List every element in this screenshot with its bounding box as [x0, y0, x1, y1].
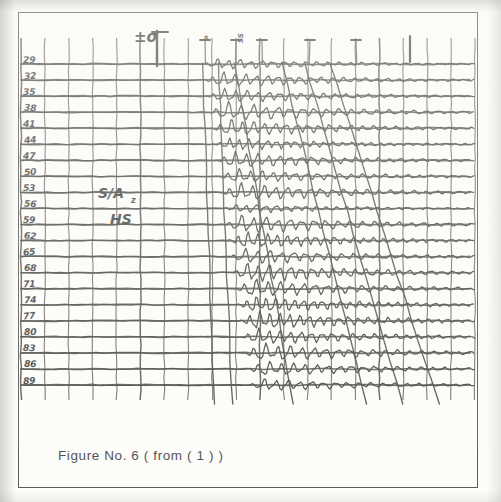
- trace-label-74: 74: [23, 294, 36, 306]
- trace-label-35: 35: [23, 85, 35, 96]
- scribble-annotation-a: P: [203, 35, 211, 40]
- trace-label-86: 86: [23, 358, 35, 369]
- trace-label-65: 65: [23, 246, 36, 258]
- amplitude-scale-label: ±σ: [134, 28, 158, 46]
- trace-label-68: 68: [23, 262, 36, 273]
- trace-label-29: 29: [23, 53, 35, 64]
- trace-label-62: 62: [23, 230, 36, 242]
- top-marks-layer: [152, 31, 410, 66]
- trace-label-44: 44: [23, 133, 36, 145]
- trace-label-56: 56: [23, 198, 36, 210]
- trace-label-38: 38: [23, 101, 36, 113]
- station-label-subscript: z: [131, 196, 136, 205]
- trace-label-32: 32: [23, 69, 36, 81]
- station-label: S/A: [98, 185, 124, 201]
- trace-label-77: 77: [23, 310, 36, 322]
- trace-label-53: 53: [23, 182, 35, 193]
- trace-label-89: 89: [23, 374, 36, 386]
- trace-label-47: 47: [23, 150, 35, 161]
- scribble-annotation-b: SS: [237, 33, 245, 43]
- trace-label-83: 83: [23, 342, 36, 354]
- trace-label-41: 41: [23, 118, 35, 129]
- trace-label-59: 59: [23, 214, 35, 225]
- trace-label-80: 80: [23, 326, 35, 337]
- trace-label-50: 50: [23, 165, 36, 177]
- figure-caption: Figure No. 6 ( from ( 1 ) ): [58, 448, 223, 463]
- figure-page: 2932353841444750535659626568717477808386…: [0, 0, 501, 502]
- trace-label-71: 71: [23, 278, 36, 290]
- station-sublabel: HS: [110, 211, 132, 227]
- seismogram-plot: [0, 0, 501, 502]
